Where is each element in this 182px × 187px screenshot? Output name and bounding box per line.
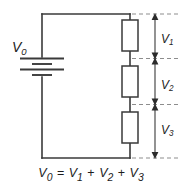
circuit-schematic-svg <box>0 0 182 187</box>
resistor-group <box>122 20 138 143</box>
equation-equals: = <box>56 166 65 180</box>
voltage-source-label: V0 <box>12 40 27 54</box>
equation-plus-1: + <box>86 166 95 180</box>
equation-term3-subscript: 3 <box>138 172 144 183</box>
dimension-v2-subscript: 2 <box>169 84 174 93</box>
resistor-r2 <box>122 66 138 97</box>
dimension-v1-arrow-up <box>152 13 159 20</box>
dimension-v3-symbol: V <box>161 123 169 137</box>
equation-term1: V <box>69 166 77 180</box>
equation-caption: V0 = V1 + V2 + V3 <box>0 166 182 183</box>
equation-term2-subscript: 2 <box>107 172 113 183</box>
dimension-v1-symbol: V <box>161 32 169 46</box>
equation-term3: V <box>130 166 138 180</box>
equation-lhs: V <box>38 166 46 180</box>
battery-symbol <box>20 59 64 76</box>
equation-term1-subscript: 1 <box>77 172 83 183</box>
equation-plus-2: + <box>117 166 126 180</box>
dimension-arrows <box>152 13 159 159</box>
voltage-source-label-symbol: V <box>12 39 21 55</box>
dimension-v3-label: V3 <box>161 124 174 136</box>
dimension-v2-symbol: V <box>161 78 169 92</box>
dimension-v3-arrow-down <box>152 152 159 159</box>
dimension-v3-arrow-up <box>152 104 159 111</box>
circuit-diagram-figure: V0 V1 V2 V3 V0 = V1 + V2 + V3 <box>0 0 182 187</box>
dimension-v2-arrow-up <box>152 58 159 65</box>
resistor-r1 <box>122 20 138 51</box>
dimension-v3-subscript: 3 <box>169 129 174 138</box>
circuit-wires <box>42 14 130 158</box>
equation-lhs-subscript: 0 <box>47 172 53 183</box>
resistor-r3 <box>122 112 138 143</box>
voltage-source-label-subscript: 0 <box>21 46 26 57</box>
dimension-v1-label: V1 <box>161 33 174 45</box>
dimension-v1-subscript: 1 <box>169 38 174 47</box>
dimension-v2-label: V2 <box>161 79 174 91</box>
